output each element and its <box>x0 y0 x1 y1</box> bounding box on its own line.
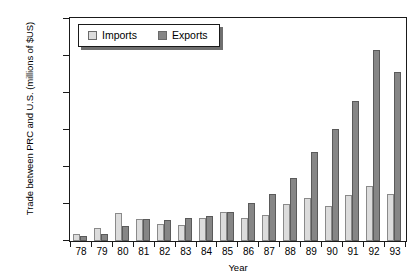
bar-imports-89 <box>304 198 311 241</box>
bar-exports-81 <box>143 219 150 241</box>
bar-imports-88 <box>283 204 290 241</box>
bar-exports-85 <box>227 212 234 241</box>
y-axis-tick <box>63 240 70 241</box>
y-axis-title: Trade between PRC and U.S. (millions of … <box>24 0 35 244</box>
bar-exports-92 <box>373 50 380 241</box>
y-axis-tick <box>63 55 70 56</box>
y-axis-tick <box>63 18 70 19</box>
bar-exports-87 <box>269 194 276 241</box>
bar-exports-89 <box>311 152 318 241</box>
bar-imports-91 <box>345 195 352 241</box>
x-axis-title: Year <box>69 262 407 273</box>
bar-exports-90 <box>332 129 339 241</box>
y-axis-tick <box>63 129 70 130</box>
bar-exports-80 <box>122 226 129 241</box>
bar-imports-86 <box>241 218 248 241</box>
bar-imports-78 <box>73 234 80 241</box>
legend-item-imports: Imports <box>88 30 137 41</box>
bar-imports-83 <box>178 225 185 241</box>
bar-imports-84 <box>199 218 206 241</box>
y-axis-tick <box>63 92 70 93</box>
bar-exports-84 <box>206 216 213 241</box>
bar-imports-80 <box>115 213 122 241</box>
bar-imports-82 <box>157 224 164 241</box>
y-axis-tick <box>63 203 70 204</box>
legend-label-exports: Exports <box>172 30 208 41</box>
plot-inner: 30,00025,00020,00015,00010,0005,0000 <box>70 18 406 241</box>
bar-imports-85 <box>220 212 227 241</box>
bar-imports-81 <box>136 219 143 241</box>
bar-imports-79 <box>94 228 101 241</box>
bar-exports-93 <box>394 72 401 241</box>
bar-imports-90 <box>325 206 332 241</box>
bar-imports-87 <box>262 215 269 241</box>
bar-exports-78 <box>80 236 87 241</box>
plot-area: 30,00025,00020,00015,00010,0005,0000 <box>69 17 407 242</box>
legend-item-exports: Exports <box>158 30 208 41</box>
imports-swatch-icon <box>88 31 97 40</box>
bar-exports-86 <box>248 203 255 241</box>
bar-exports-91 <box>352 101 359 241</box>
bar-exports-79 <box>101 234 108 241</box>
bar-imports-92 <box>366 186 373 241</box>
x-axis-label-93: 93 <box>375 246 415 257</box>
bar-chart: Trade between PRC and U.S. (millions of … <box>0 0 418 279</box>
exports-swatch-icon <box>158 31 167 40</box>
bar-exports-82 <box>164 220 171 241</box>
legend-label-imports: Imports <box>102 30 137 41</box>
bar-imports-93 <box>387 194 394 241</box>
cropped-caption <box>0 0 418 4</box>
chart-legend: Imports Exports <box>78 24 220 47</box>
bar-exports-88 <box>290 178 297 241</box>
bar-exports-83 <box>185 218 192 241</box>
y-axis-tick <box>63 166 70 167</box>
